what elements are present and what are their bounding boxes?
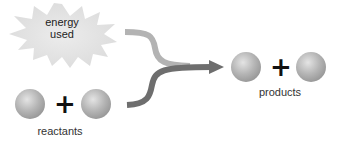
energy-input-path (125, 32, 190, 66)
products-plus: + (270, 54, 292, 80)
reactants-label: reactants (25, 125, 95, 137)
reaction-path (127, 67, 212, 105)
energy-label: energy used (37, 16, 87, 40)
arrow-head-icon (209, 60, 224, 74)
reactants-plus: + (54, 91, 76, 117)
energy-label-line2: used (37, 28, 87, 40)
products-label: products (248, 86, 312, 98)
product-sphere-2 (296, 52, 326, 82)
reactant-sphere-1 (15, 89, 45, 119)
product-sphere-1 (231, 52, 261, 82)
reactant-sphere-2 (81, 89, 111, 119)
energy-label-line1: energy (37, 16, 87, 28)
